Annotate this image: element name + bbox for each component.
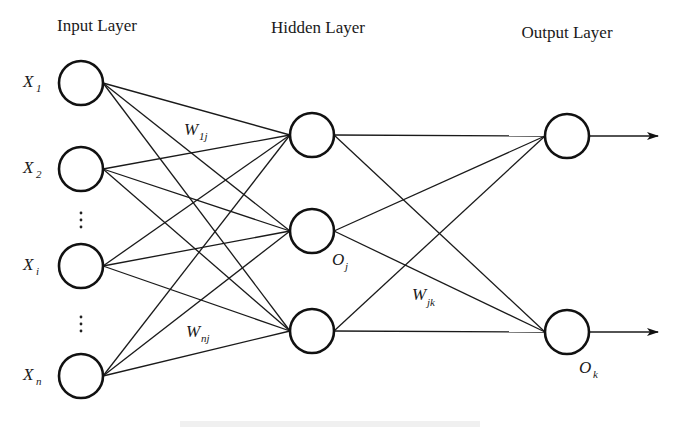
- weight-label-wnj: W nj: [186, 322, 210, 344]
- input-label-xi: Xi: [22, 255, 39, 277]
- svg-text:1j: 1j: [199, 130, 208, 142]
- edge-hidden-1-output-0: [334, 136, 545, 231]
- svg-text:W: W: [184, 120, 200, 139]
- svg-text:i: i: [36, 265, 39, 277]
- input-label-xn: Xn: [22, 365, 42, 387]
- edge-hidden-2-output-1: [334, 331, 545, 332]
- input-nodes: [59, 61, 103, 398]
- svg-text:1: 1: [36, 82, 42, 94]
- svg-text:k: k: [593, 368, 599, 380]
- output-nodes: [545, 114, 589, 354]
- svg-text:nj: nj: [201, 332, 210, 344]
- hidden-node-3: [290, 309, 334, 353]
- svg-text:X: X: [22, 158, 34, 177]
- hidden-layer-title: Hidden Layer: [271, 18, 365, 37]
- hidden-output-connections: [334, 135, 545, 332]
- output-node-1: [545, 114, 589, 158]
- svg-text:X: X: [22, 255, 34, 274]
- input-node-4: [59, 354, 103, 398]
- svg-text:O: O: [332, 250, 344, 269]
- edge-hidden-1-output-1: [334, 231, 545, 332]
- weight-label-wjk: W jk: [412, 285, 436, 308]
- ellipsis-dot: [80, 323, 83, 326]
- output-label-ok: O k: [579, 358, 599, 380]
- edge-input-3-hidden-1: [103, 231, 290, 376]
- input-node-2: [59, 147, 103, 191]
- hidden-output-label-oj: O j: [332, 250, 348, 272]
- input-node-1: [59, 61, 103, 105]
- output-arrows: [589, 136, 658, 332]
- neural-network-diagram: Input Layer Hidden Layer Output Layer X1…: [0, 0, 674, 427]
- svg-text:n: n: [36, 375, 42, 387]
- svg-text:jk: jk: [425, 296, 436, 308]
- edge-input-2-hidden-0: [103, 135, 290, 266]
- svg-text:2: 2: [36, 168, 42, 180]
- output-node-2: [545, 310, 589, 354]
- svg-text:O: O: [579, 358, 591, 377]
- edge-input-2-hidden-1: [103, 231, 290, 266]
- input-layer-title: Input Layer: [57, 16, 137, 35]
- edge-input-0-hidden-1: [103, 83, 290, 231]
- ellipsis-dot: [80, 316, 83, 319]
- svg-text:X: X: [22, 365, 34, 384]
- ellipsis-dot: [80, 219, 83, 222]
- input-label-x1: X1: [22, 72, 42, 94]
- input-label-x2: X2: [22, 158, 42, 180]
- hidden-nodes: [290, 113, 334, 353]
- input-labels: X1X2XiXn: [22, 72, 42, 387]
- svg-text:W: W: [186, 322, 202, 341]
- edge-input-1-hidden-0: [103, 135, 290, 169]
- svg-text:W: W: [412, 285, 428, 304]
- edge-input-1-hidden-2: [103, 169, 290, 331]
- input-node-3: [59, 244, 103, 288]
- ellipsis-dot: [80, 212, 83, 215]
- hidden-node-1: [290, 113, 334, 157]
- caption-clipped: [180, 421, 480, 427]
- ellipsis-dot: [80, 330, 83, 333]
- ellipsis-dot: [80, 226, 83, 229]
- output-layer-title: Output Layer: [521, 23, 612, 42]
- edge-hidden-0-output-0: [334, 135, 545, 136]
- hidden-node-2: [290, 209, 334, 253]
- svg-text:X: X: [22, 72, 34, 91]
- weight-label-w1j: W 1j: [184, 120, 208, 142]
